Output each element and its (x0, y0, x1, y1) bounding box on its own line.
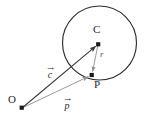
point-label-P: P (94, 79, 100, 90)
diagram-canvas (0, 0, 150, 124)
point-marker-C (96, 42, 100, 46)
vector-label-c: → c (46, 65, 54, 80)
point-marker-P (90, 73, 94, 77)
vector-circle-diagram: O C P → c → p r (0, 0, 150, 124)
point-marker-O (20, 106, 24, 110)
vector-p-overarrow: → (62, 96, 71, 101)
point-label-C: C (93, 24, 100, 35)
vector-p-line (22, 77, 89, 109)
vector-label-p: → p (63, 96, 71, 111)
vector-c-overarrow: → (45, 65, 54, 70)
vector-label-r: r (100, 50, 104, 59)
point-label-O: O (8, 94, 16, 105)
